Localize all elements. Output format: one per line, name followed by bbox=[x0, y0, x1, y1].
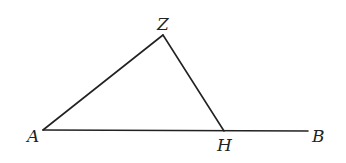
label-z: Z bbox=[156, 14, 170, 34]
segment-zh bbox=[163, 35, 224, 131]
label-h: H bbox=[216, 135, 233, 155]
segment-az bbox=[43, 35, 163, 130]
segment-ab bbox=[43, 130, 308, 131]
label-b: B bbox=[311, 126, 325, 146]
triangle-diagram: A Z H B bbox=[0, 0, 346, 163]
label-a: A bbox=[25, 126, 39, 146]
